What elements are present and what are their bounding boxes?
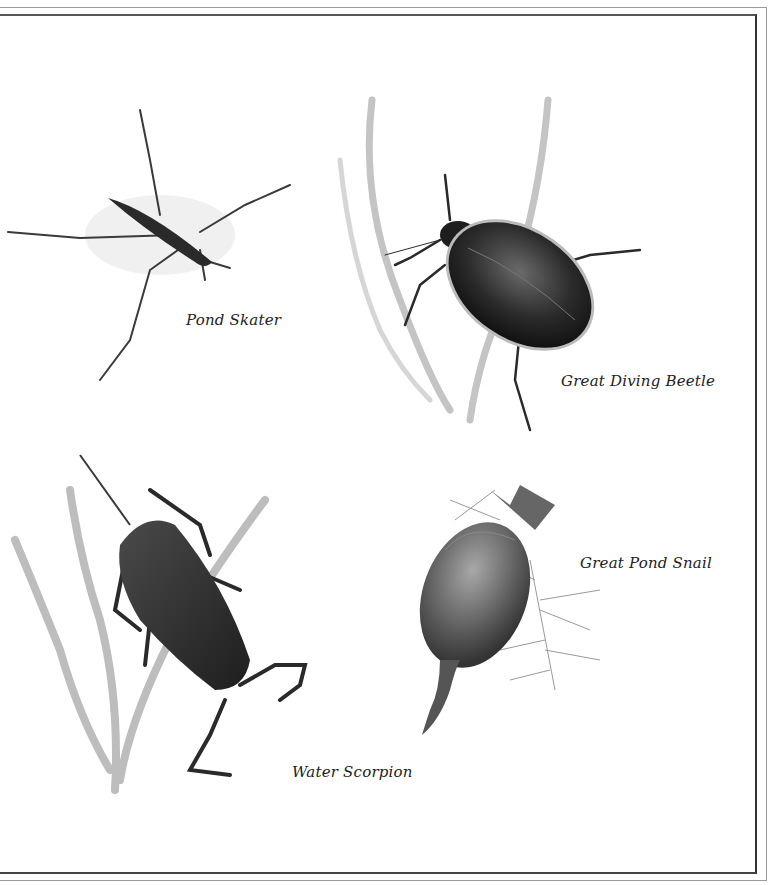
label-pond-skater: Pond Skater — [186, 311, 281, 329]
illustration-canvas — [0, 0, 770, 885]
label-great-pond-snail: Great Pond Snail — [580, 554, 712, 572]
great-pond-snail-figure — [400, 485, 555, 735]
label-great-diving-beetle: Great Diving Beetle — [561, 372, 715, 390]
label-water-scorpion: Water Scorpion — [292, 763, 413, 781]
pond-skater-figure — [8, 110, 290, 380]
